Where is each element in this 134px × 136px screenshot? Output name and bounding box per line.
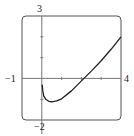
y-max-label: 3: [37, 3, 42, 14]
plot-frame: [22, 16, 121, 120]
function-graph: 3 −2 −1 4: [0, 0, 134, 136]
y-min-label: −2: [34, 121, 45, 132]
tick-marks: [40, 37, 101, 99]
x-max-label: 4: [124, 73, 129, 84]
function-curve: [42, 37, 121, 102]
x-min-label: −1: [5, 73, 16, 84]
